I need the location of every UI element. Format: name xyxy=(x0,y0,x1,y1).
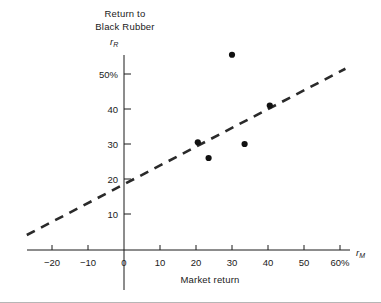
data-point xyxy=(267,102,273,108)
x-tick-label: 0 xyxy=(121,257,126,268)
x-axis-ticks: −20−100102030405060% xyxy=(44,245,350,268)
data-points xyxy=(195,52,273,161)
x-tick-label: 10 xyxy=(155,257,166,268)
y-tick-label: 40 xyxy=(107,104,118,115)
x-tick-label: 60% xyxy=(330,257,350,268)
data-point xyxy=(229,52,235,58)
y-tick-label: 30 xyxy=(107,139,118,150)
chart-plot-area: −20−100102030405060% 1020304050% xyxy=(0,0,381,303)
x-tick-label: 50 xyxy=(299,257,310,268)
y-tick-label: 20 xyxy=(107,174,118,185)
x-tick-label: −20 xyxy=(44,257,60,268)
chart-figure: Return to Black Rubber rR rM Market retu… xyxy=(0,0,381,303)
x-tick-label: −10 xyxy=(80,257,96,268)
y-axis-ticks: 1020304050% xyxy=(99,69,131,220)
x-tick-label: 40 xyxy=(263,257,274,268)
data-point xyxy=(195,139,201,145)
y-tick-label: 10 xyxy=(107,209,118,220)
x-tick-label: 20 xyxy=(191,257,202,268)
x-tick-label: 30 xyxy=(227,257,238,268)
data-point xyxy=(206,155,212,161)
y-tick-label: 50% xyxy=(99,69,119,80)
data-point xyxy=(242,141,248,147)
fit-line xyxy=(27,69,346,235)
fit-line-path xyxy=(27,69,346,235)
